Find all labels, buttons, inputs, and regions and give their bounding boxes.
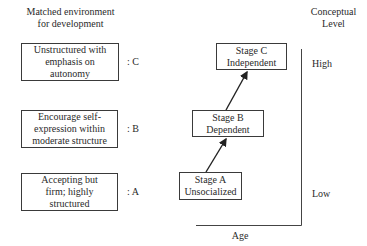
arrow-a-to-b: [206, 139, 226, 172]
stage-b-title: Stage B: [206, 112, 249, 124]
stage-diagram-lines: [0, 0, 367, 246]
stage-c-box: Stage C Independent: [216, 43, 287, 70]
stage-b-desc: Dependent: [206, 124, 249, 136]
y-axis-high-label: High: [312, 58, 332, 70]
stage-a-desc: Unsocialized: [184, 186, 236, 198]
stage-c-title: Stage C: [227, 45, 276, 57]
stage-c-desc: Independent: [227, 57, 276, 69]
arrow-b-to-c: [226, 72, 247, 110]
stage-b-box: Stage B Dependent: [192, 110, 264, 137]
y-axis-low-label: Low: [312, 188, 330, 200]
stage-a-box: Stage A Unsocialized: [179, 172, 242, 200]
stage-a-title: Stage A: [184, 174, 236, 186]
x-axis-label: Age: [210, 230, 270, 242]
